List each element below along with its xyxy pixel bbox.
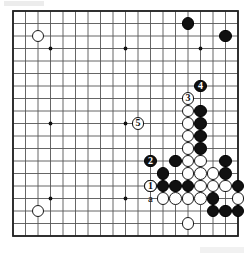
black-stone [157,167,170,180]
white-stone [169,192,182,205]
black-stone [169,180,182,193]
move-3-marker: 3 [182,92,195,105]
white-stone [219,180,232,193]
scan-artifact-bottom [200,247,244,253]
move-2-marker: 2 [144,155,157,168]
go-diagram: 12345a [0,0,251,255]
black-stone [194,142,207,155]
white-stone [194,167,207,180]
white-stone [194,192,207,205]
move-4-marker: 4 [194,80,207,93]
move-1-marker: 1 [144,180,157,193]
black-stone [219,155,232,168]
white-stone [182,142,195,155]
white-stone [207,167,220,180]
black-stone [207,192,220,205]
black-stone [219,205,232,218]
point-a-label: a [144,193,157,204]
white-stone [194,155,207,168]
white-stone [182,217,195,230]
white-stone [182,167,195,180]
white-stone [232,192,245,205]
black-stone [194,105,207,118]
white-stone [182,192,195,205]
white-stone [157,192,170,205]
black-stone [194,130,207,143]
black-stone [219,167,232,180]
black-stone [169,155,182,168]
white-stone [182,117,195,130]
white-stone [194,180,207,193]
black-stone [182,17,195,30]
black-stone [219,30,232,43]
move-5-marker: 5 [132,117,145,130]
black-stone [194,117,207,130]
